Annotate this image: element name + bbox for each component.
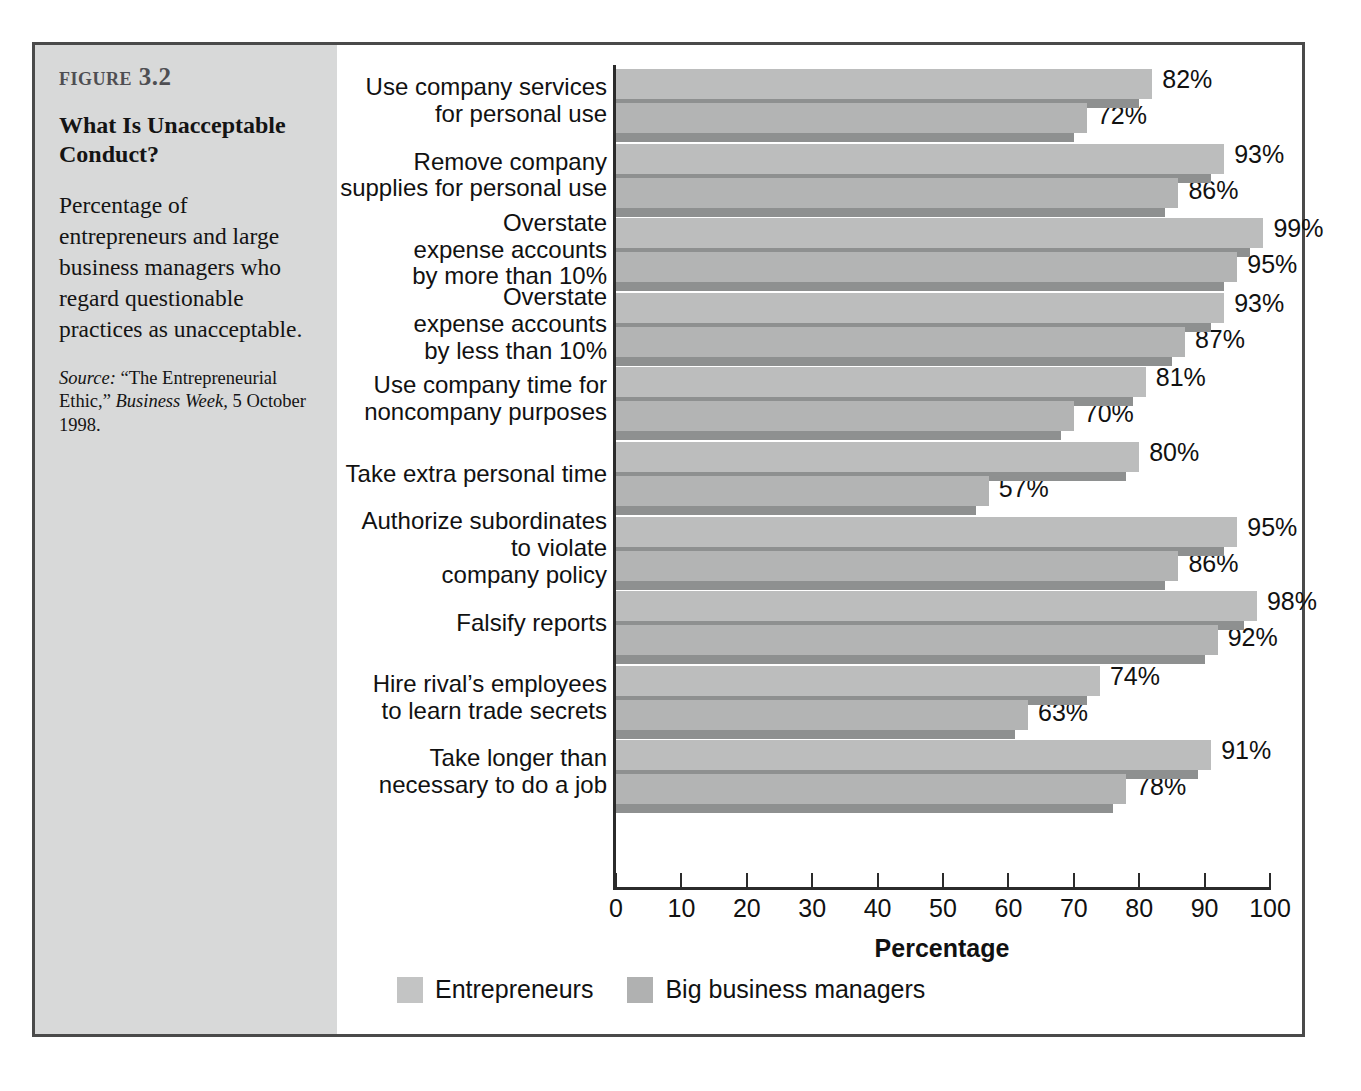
figure-frame: Figure 3.2 What Is Unacceptable Conduct?…: [32, 42, 1305, 1037]
category-label-line: by less than 10%: [327, 338, 607, 365]
bar-entrepreneurs[interactable]: [616, 517, 1237, 547]
category-label-line: expense accounts: [327, 311, 607, 338]
bar-shadow: [616, 431, 1061, 440]
x-axis-tick: [1138, 873, 1140, 887]
figure-description: Percentage of entrepreneurs and large bu…: [59, 190, 315, 345]
bar-entrepreneurs[interactable]: [616, 442, 1139, 472]
bar-pair: [616, 591, 1257, 655]
x-axis-tick: [942, 873, 944, 887]
bar-pair: [616, 293, 1224, 357]
bar-shadow: [616, 282, 1224, 291]
bar-entrepreneurs[interactable]: [616, 144, 1224, 174]
x-axis-tick: [615, 873, 617, 887]
chart-legend: EntrepreneursBig business managers: [397, 975, 925, 1004]
category-label-line: expense accounts: [327, 237, 607, 264]
bar-entrepreneurs[interactable]: [616, 666, 1100, 696]
bar-big-business-managers[interactable]: [616, 774, 1126, 804]
category-label-line: Authorize subordinates: [327, 508, 607, 535]
bar-shadow: [616, 730, 1015, 739]
x-axis-tick-label: 40: [864, 894, 892, 923]
category-label: Remove companysupplies for personal use: [327, 149, 607, 203]
category-label-line: necessary to do a job: [327, 772, 607, 799]
bar-big-business-managers[interactable]: [616, 103, 1087, 133]
x-axis-tick-label: 20: [733, 894, 761, 923]
legend-item[interactable]: Entrepreneurs: [397, 975, 593, 1004]
legend-label: Big business managers: [665, 975, 925, 1004]
category-label-line: Use company time for: [327, 372, 607, 399]
x-axis-tick: [1269, 873, 1271, 887]
bar-shadow: [616, 208, 1165, 217]
category-label-line: noncompany purposes: [327, 399, 607, 426]
bar-big-business-managers[interactable]: [616, 401, 1074, 431]
bar-entrepreneurs[interactable]: [616, 218, 1263, 248]
bar-shadow: [616, 804, 1113, 813]
x-axis-tick: [811, 873, 813, 887]
x-axis-tick-label: 50: [929, 894, 957, 923]
x-axis-tick-label: 10: [667, 894, 695, 923]
x-axis-line: [613, 887, 1271, 890]
category-label: Use company servicesfor personal use: [327, 74, 607, 128]
bar-big-business-managers[interactable]: [616, 178, 1178, 208]
figure-source: Source: “The Entrepreneurial Ethic,” Bus…: [59, 367, 315, 438]
figure-source-label: Source:: [59, 368, 116, 388]
figure-title: What Is Unacceptable Conduct?: [59, 111, 315, 170]
bar-entrepreneurs[interactable]: [616, 740, 1211, 770]
bar-pair: [616, 69, 1152, 133]
bar-big-business-managers[interactable]: [616, 551, 1178, 581]
bar-big-business-managers[interactable]: [616, 327, 1185, 357]
category-label: Falsify reports: [327, 610, 607, 637]
bar-value-label: 91%: [1221, 736, 1271, 765]
x-axis-tick: [1204, 873, 1206, 887]
bar-big-business-managers[interactable]: [616, 625, 1218, 655]
category-label-line: Remove company: [327, 149, 607, 176]
legend-swatch-icon: [397, 977, 423, 1003]
x-axis-tick: [680, 873, 682, 887]
bar-entrepreneurs[interactable]: [616, 591, 1257, 621]
legend-item[interactable]: Big business managers: [627, 975, 925, 1004]
bar-value-label: 81%: [1156, 363, 1206, 392]
category-label-line: Falsify reports: [327, 610, 607, 637]
bar-pair: [616, 666, 1100, 730]
chart-area: Use company servicesfor personal use82%7…: [337, 45, 1302, 1034]
category-label: Take extra personal time: [327, 461, 607, 488]
figure-number: Figure 3.2: [59, 63, 315, 91]
bar-value-label: 93%: [1234, 140, 1284, 169]
bar-pair: [616, 218, 1263, 282]
category-label: Overstateexpense accountsby less than 10…: [327, 284, 607, 365]
bar-big-business-managers[interactable]: [616, 252, 1237, 282]
bar-big-business-managers[interactable]: [616, 700, 1028, 730]
category-label: Hire rival’s employeesto learn trade sec…: [327, 671, 607, 725]
x-axis-tick: [1007, 873, 1009, 887]
bar-pair: [616, 442, 1139, 506]
bar-shadow: [616, 581, 1165, 590]
category-label: Authorize subordinatesto violatecompany …: [327, 508, 607, 589]
bar-entrepreneurs[interactable]: [616, 69, 1152, 99]
bar-shadow: [616, 357, 1172, 366]
x-axis-tick: [1073, 873, 1075, 887]
category-label-line: for personal use: [327, 101, 607, 128]
category-label-line: Take extra personal time: [327, 461, 607, 488]
bar-pair: [616, 144, 1224, 208]
bar-big-business-managers[interactable]: [616, 476, 989, 506]
x-axis-tick-label: 0: [609, 894, 623, 923]
x-axis-tick-label: 100: [1249, 894, 1291, 923]
bar-shadow: [616, 506, 976, 515]
bar-value-label: 82%: [1162, 65, 1212, 94]
x-axis-title: Percentage: [613, 934, 1271, 963]
legend-label: Entrepreneurs: [435, 975, 593, 1004]
bar-entrepreneurs[interactable]: [616, 293, 1224, 323]
legend-swatch-icon: [627, 977, 653, 1003]
category-label-line: Use company services: [327, 74, 607, 101]
bar-value-label: 93%: [1234, 289, 1284, 318]
category-label-line: Overstate: [327, 284, 607, 311]
figure-caption-panel: Figure 3.2 What Is Unacceptable Conduct?…: [35, 45, 337, 1034]
bar-pair: [616, 517, 1237, 581]
bar-shadow: [616, 133, 1074, 142]
x-axis-tick-label: 70: [1060, 894, 1088, 923]
x-axis-tick-label: 80: [1125, 894, 1153, 923]
category-label-line: to learn trade secrets: [327, 698, 607, 725]
category-label-line: Take longer than: [327, 745, 607, 772]
bar-entrepreneurs[interactable]: [616, 367, 1146, 397]
category-label-line: to violate: [327, 535, 607, 562]
bar-pair: [616, 740, 1211, 804]
